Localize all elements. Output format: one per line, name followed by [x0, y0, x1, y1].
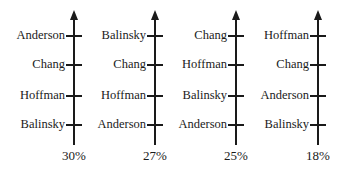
arrow-up-icon: [151, 10, 159, 20]
rank-tick: [147, 124, 163, 126]
arrow-up-icon: [232, 10, 240, 20]
rank-tick: [310, 124, 326, 126]
arrow-up-icon: [70, 10, 78, 20]
rank-tick: [147, 95, 163, 97]
rank-tick: [147, 64, 163, 66]
rank-tick: [66, 35, 82, 37]
candidate-label: Chang: [113, 57, 146, 71]
candidate-label: Chang: [32, 57, 65, 71]
percent-label: 18%: [303, 148, 333, 163]
candidate-label: Anderson: [97, 117, 146, 131]
rank-tick: [147, 35, 163, 37]
candidate-label: Balinsky: [102, 28, 146, 42]
candidate-label: Chang: [276, 57, 309, 71]
rank-tick: [310, 64, 326, 66]
candidate-label: Hoffman: [101, 88, 146, 102]
candidate-label: Balinsky: [183, 88, 227, 102]
candidate-label: Chang: [194, 28, 227, 42]
candidate-label: Anderson: [16, 28, 65, 42]
candidate-label: Hoffman: [264, 28, 309, 42]
rank-tick: [228, 35, 244, 37]
rank-tick: [310, 35, 326, 37]
arrow-up-icon: [314, 10, 322, 20]
candidate-label: Anderson: [260, 88, 309, 102]
rank-tick: [228, 95, 244, 97]
rank-tick: [228, 124, 244, 126]
percent-label: 30%: [59, 148, 89, 163]
percent-label: 27%: [140, 148, 170, 163]
candidate-label: Anderson: [178, 117, 227, 131]
rank-tick: [228, 64, 244, 66]
candidate-label: Hoffman: [20, 88, 65, 102]
rank-tick: [66, 124, 82, 126]
candidate-label: Balinsky: [21, 117, 65, 131]
candidate-label: Hoffman: [182, 57, 227, 71]
rank-tick: [66, 64, 82, 66]
rank-tick: [310, 95, 326, 97]
candidate-label: Balinsky: [265, 117, 309, 131]
rank-tick: [66, 95, 82, 97]
percent-label: 25%: [221, 148, 251, 163]
